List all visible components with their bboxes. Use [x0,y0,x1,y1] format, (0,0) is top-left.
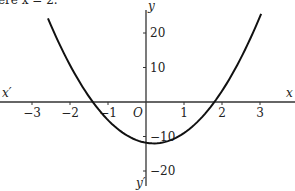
parabola-chart: −3−2−11232010−10−20xx′yy′O [0,0,295,191]
x-tick-label: 2 [218,106,226,120]
origin-label: O [133,106,143,120]
x-tick-label: −2 [61,106,79,120]
y-tick-label: −20 [150,164,175,178]
y-axis-label: y [147,0,155,13]
x-tick-label: 3 [256,106,264,120]
y-tick-label: −10 [150,130,175,144]
x-axis-neg-label: x′ [2,86,12,100]
x-axis-label: x [286,86,293,100]
y-tick-label: 10 [150,61,165,75]
y-axis-neg-label: y′ [135,176,146,190]
x-tick-label: 1 [180,106,188,120]
y-tick-label: 20 [150,26,165,40]
x-tick-label: −3 [23,106,41,120]
